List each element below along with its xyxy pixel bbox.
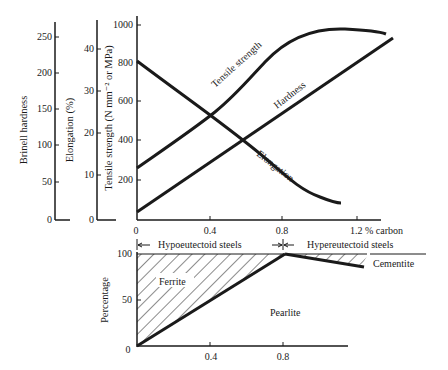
tensile-axis-label: Tensile strength (N mm⁻² or MPa) (103, 45, 115, 191)
hypereutectoid-arrow (272, 239, 294, 250)
bottom-x-tick-0.4: 0.4 (205, 351, 218, 362)
hardness-curve-label: Hardness (271, 79, 307, 111)
pearlite-label: Pearlite (270, 307, 301, 318)
bottom-y-tick-100: 100 (117, 248, 132, 259)
elongation-tick-20: 20 (84, 127, 94, 138)
elongation-curve-label: Elongation (255, 148, 296, 184)
elongation-tick-10: 10 (84, 169, 94, 180)
brinell-tick-0: 0 (47, 214, 52, 225)
brinell-axis-label: Brinell hardness (18, 96, 29, 165)
ferrite-label: Ferrite (159, 276, 186, 287)
carbon-steel-chart: 0 50 100 150 200 250 Brinell hardness 0 … (0, 0, 448, 370)
tensile-tick-600: 600 (118, 95, 133, 106)
tensile-tick-400: 400 (118, 134, 133, 145)
brinell-tick-100: 100 (37, 139, 52, 150)
percentage-axis-label: Percentage (99, 277, 110, 323)
hypoeutectoid-arrow (137, 239, 150, 250)
brinell-tick-200: 200 (37, 67, 52, 78)
top-x-tick-0.4: 0.4 (204, 225, 217, 236)
brinell-axis: 0 50 100 150 200 250 Brinell hardness (18, 22, 70, 225)
elongation-axis-label: Elongation (%) (64, 97, 76, 162)
top-x-tick-1.2: 1.2 % carbon (350, 225, 403, 236)
elongation-tick-40: 40 (84, 43, 94, 54)
tensile-curve-label: Tensile strength (209, 39, 264, 90)
brinell-tick-150: 150 (37, 103, 52, 114)
elongation-tick-30: 30 (84, 85, 94, 96)
top-x-tick-0.8: 0.8 (276, 225, 289, 236)
brinell-tick-250: 250 (37, 31, 52, 42)
hypoeutectoid-label: Hypoeutectoid steels (158, 239, 242, 250)
tensile-tick-200: 200 (118, 174, 133, 185)
tensile-tick-1000: 1000 (113, 19, 133, 30)
bottom-x-tick-0.8: 0.8 (277, 351, 290, 362)
phase-chart: Hypoeutectoid steels Hypereutectoid stee… (99, 239, 426, 362)
brinell-tick-50: 50 (42, 176, 52, 187)
tensile-tick-800: 800 (118, 57, 133, 68)
hypereutectoid-label: Hypereutectoid steels (307, 239, 393, 250)
elongation-curve (137, 61, 341, 203)
elongation-tick-0: 0 (89, 214, 94, 225)
cementite-label: Cementite (373, 258, 415, 269)
top-x-tick-0: 0 (134, 225, 139, 236)
bottom-y-tick-0: 0 (126, 344, 131, 355)
bottom-y-tick-50: 50 (122, 294, 132, 305)
